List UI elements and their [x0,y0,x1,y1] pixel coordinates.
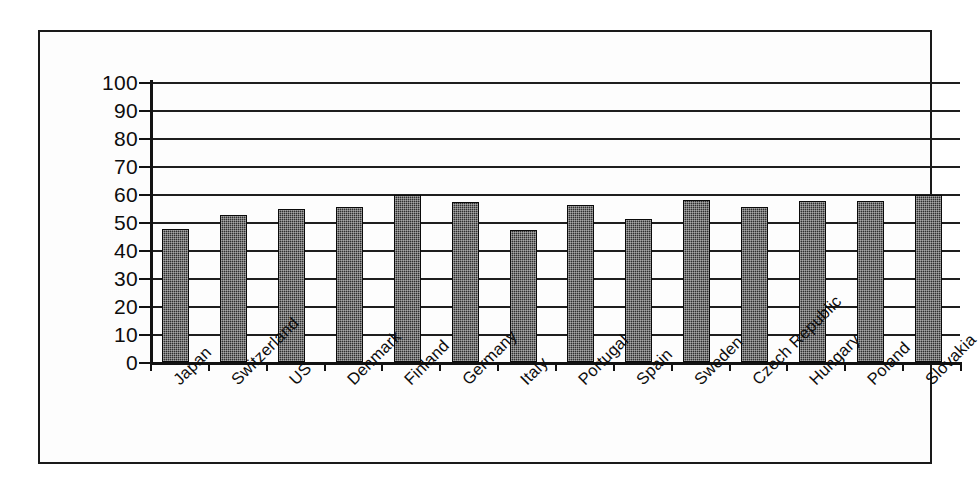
x-axis-tick-4 [381,362,383,371]
gridline-70 [150,166,960,168]
y-axis-tick-40 [139,250,150,252]
y-axis-tick-70 [139,166,150,168]
y-axis-tick-label-20: 20 [114,296,138,317]
bar-germany [452,202,479,362]
y-axis-tick-30 [139,278,150,280]
gridline-30 [150,278,960,280]
gridline-90 [150,110,960,112]
bar-switzerland [220,215,247,362]
x-axis-tick-10 [729,362,731,371]
y-axis-tick-100 [139,82,150,84]
bar-portugal [567,205,594,362]
y-axis-tick-label-40: 40 [114,240,138,261]
y-axis-tick-label-60: 60 [114,184,138,205]
y-axis-tick-label-80: 80 [114,128,138,149]
y-axis-labels: 0102030405060708090100 [86,82,138,362]
x-axis-tick-14 [960,362,962,371]
y-axis-tick-80 [139,138,150,140]
x-axis-tick-3 [324,362,326,371]
y-axis-tick-90 [139,110,150,112]
x-axis-tick-12 [844,362,846,371]
y-axis-tick-label-30: 30 [114,268,138,289]
plot-area [150,82,960,362]
x-axis-tick-5 [439,362,441,371]
x-axis-tick-11 [786,362,788,371]
y-axis-tick-label-100: 100 [102,72,138,93]
y-axis-tick-10 [139,334,150,336]
chart-frame: 0102030405060708090100 JapanSwitzerlandU… [38,30,932,464]
value-axis-line [150,80,153,364]
y-axis-tick-0 [139,362,150,364]
x-axis-tick-13 [902,362,904,371]
x-axis-tick-0 [150,362,152,371]
gridline-50 [150,222,960,224]
y-axis-tick-label-10: 10 [114,324,138,345]
bar-denmark [336,207,363,362]
x-axis-tick-8 [613,362,615,371]
gridline-60 [150,194,960,196]
y-axis-tick-20 [139,306,150,308]
x-axis-tick-7 [555,362,557,371]
x-axis-tick-9 [671,362,673,371]
x-axis-tick-1 [208,362,210,371]
gridline-100 [150,82,960,84]
bar-poland [857,201,884,362]
y-axis-tick-label-70: 70 [114,156,138,177]
gridline-40 [150,250,960,252]
y-axis-tick-50 [139,222,150,224]
gridline-80 [150,138,960,140]
x-axis-tick-6 [497,362,499,371]
bar-slovakia [915,195,942,362]
x-axis-tick-2 [266,362,268,371]
y-axis-tick-label-90: 90 [114,100,138,121]
y-axis-tick-label-50: 50 [114,212,138,233]
y-axis-tick-60 [139,194,150,196]
bar-czech-republic [741,207,768,362]
bar-japan [162,229,189,362]
y-axis-tick-label-0: 0 [126,352,138,373]
bar-sweden [683,200,710,362]
